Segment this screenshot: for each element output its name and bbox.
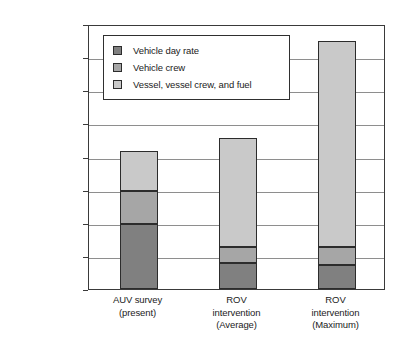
legend: Vehicle day rateVehicle crewVessel, vess… [103, 35, 290, 100]
bar-segment[interactable] [219, 263, 257, 289]
bar-segment[interactable] [318, 41, 356, 247]
bar-segment[interactable] [120, 151, 158, 192]
legend-swatch-icon [113, 63, 122, 72]
bar-segment[interactable] [120, 224, 158, 289]
x-axis-category-line: ROV [185, 294, 289, 307]
legend-item-label: Vehicle day rate [133, 45, 199, 56]
legend-item[interactable]: Vehicle day rate [113, 42, 281, 59]
x-axis-category-line: (present) [86, 307, 190, 320]
x-axis-category-line: AUV survey [86, 294, 190, 307]
bar-segment[interactable] [120, 191, 158, 224]
y-axis: $160,000.00$140,000.00$120,000.00$100,00… [0, 0, 82, 357]
x-axis-category-label: ROVintervention(Average) [185, 294, 289, 332]
legend-swatch-icon [113, 46, 122, 55]
x-axis-category-line: ROV [284, 294, 388, 307]
legend-item-label: Vessel, vessel crew, and fuel [133, 79, 252, 90]
x-axis-category-line: intervention [284, 307, 388, 320]
bar-segment[interactable] [318, 265, 356, 289]
x-axis-category-line: (Maximum) [284, 319, 388, 332]
x-axis-category-line: intervention [185, 307, 289, 320]
bar-segment[interactable] [219, 138, 257, 246]
stacked-bar-chart: $160,000.00$140,000.00$120,000.00$100,00… [0, 0, 403, 357]
legend-item-label: Vehicle crew [133, 62, 185, 73]
bar-segment[interactable] [219, 247, 257, 264]
x-axis-category-line: (Average) [185, 319, 289, 332]
bar-segment[interactable] [318, 247, 356, 265]
legend-swatch-icon [113, 80, 122, 89]
legend-item[interactable]: Vehicle crew [113, 59, 281, 76]
y-axis-tick-mark [83, 290, 88, 291]
x-axis-category-label: ROVintervention(Maximum) [284, 294, 388, 332]
bar-stack[interactable] [318, 24, 356, 289]
legend-item[interactable]: Vessel, vessel crew, and fuel [113, 76, 281, 93]
x-axis-category-label: AUV survey(present) [86, 294, 190, 319]
x-axis: AUV survey(present)ROVintervention(Avera… [88, 294, 385, 354]
